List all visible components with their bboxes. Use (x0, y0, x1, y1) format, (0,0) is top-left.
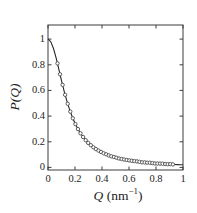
x-axis-label: Q (nm−1) (48, 186, 188, 204)
data-point (171, 163, 174, 166)
data-point (76, 127, 79, 130)
x-tick-label: 0.2 (68, 173, 81, 185)
data-point (58, 73, 61, 76)
data-point (66, 102, 69, 105)
data-point (74, 122, 77, 125)
data-point (63, 93, 66, 96)
x-axis-unit-close: ) (138, 188, 143, 203)
x-axis-unit: (nm (103, 188, 128, 203)
x-tick-label: 1 (180, 173, 185, 185)
data-point (79, 132, 82, 135)
data-point (81, 135, 84, 138)
x-tick-label: 0.4 (95, 173, 108, 185)
y-tick-label: 1 (12, 33, 45, 45)
figure-canvas: P(Q) Q (nm−1) 00.20.40.60.8100.20.40.60.… (0, 0, 197, 213)
data-point (71, 117, 74, 120)
y-tick-label: 0.6 (12, 84, 45, 96)
y-tick-label: 0.2 (12, 136, 45, 148)
x-tick-label: 0.8 (149, 173, 162, 185)
x-axis-exponent: −1 (128, 186, 138, 196)
data-point (56, 62, 59, 65)
data-point (61, 83, 64, 86)
y-tick-label: 0.8 (12, 59, 45, 71)
x-tick-label: 0.6 (122, 173, 135, 185)
axes-frame (48, 25, 183, 170)
x-axis-symbol: Q (94, 188, 104, 203)
y-tick-label: 0 (12, 161, 45, 173)
x-tick-label: 0 (45, 173, 50, 185)
data-point (69, 110, 72, 113)
y-tick-label: 0.4 (12, 110, 45, 122)
